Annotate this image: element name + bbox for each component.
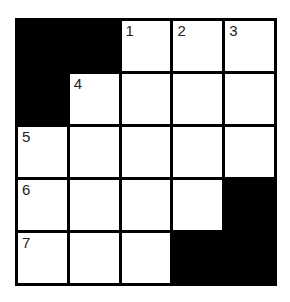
block-cell — [173, 233, 222, 283]
answer-cell[interactable] — [122, 74, 171, 124]
answer-cell[interactable] — [225, 127, 274, 177]
answer-cell[interactable]: 1 — [122, 21, 171, 71]
answer-cell[interactable]: 6 — [18, 180, 67, 230]
crossword-grid: 1234567 — [15, 18, 277, 286]
answer-cell[interactable] — [173, 180, 222, 230]
answer-cell[interactable] — [225, 74, 274, 124]
block-cell — [18, 74, 67, 124]
answer-cell[interactable] — [122, 180, 171, 230]
answer-cell[interactable] — [70, 233, 119, 283]
answer-cell[interactable] — [70, 180, 119, 230]
answer-cell[interactable]: 5 — [18, 127, 67, 177]
block-cell — [225, 233, 274, 283]
answer-cell[interactable] — [173, 74, 222, 124]
block-cell — [18, 21, 67, 71]
answer-cell[interactable] — [122, 233, 171, 283]
answer-cell[interactable]: 2 — [173, 21, 222, 71]
clue-number: 3 — [229, 23, 237, 38]
clue-number: 1 — [126, 23, 134, 38]
answer-cell[interactable] — [173, 127, 222, 177]
answer-cell[interactable] — [70, 127, 119, 177]
answer-cell[interactable] — [122, 127, 171, 177]
block-cell — [70, 21, 119, 71]
clue-number: 6 — [22, 182, 30, 197]
clue-number: 4 — [74, 76, 82, 91]
answer-cell[interactable]: 7 — [18, 233, 67, 283]
answer-cell[interactable]: 3 — [225, 21, 274, 71]
block-cell — [225, 180, 274, 230]
clue-number: 7 — [22, 235, 30, 250]
answer-cell[interactable]: 4 — [70, 74, 119, 124]
clue-number: 5 — [22, 129, 30, 144]
clue-number: 2 — [177, 23, 185, 38]
